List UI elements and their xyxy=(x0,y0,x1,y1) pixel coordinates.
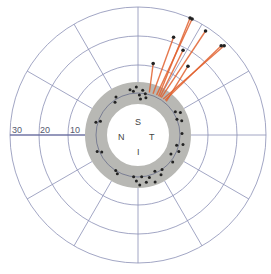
data-point xyxy=(171,161,174,164)
data-point xyxy=(180,132,183,135)
data-point xyxy=(138,183,141,186)
vector-endpoint xyxy=(188,16,192,20)
spoke xyxy=(74,181,112,246)
data-point xyxy=(148,176,151,179)
axis-label-20: 20 xyxy=(40,125,50,135)
data-point xyxy=(145,181,148,184)
spoke xyxy=(165,181,203,246)
vector-line xyxy=(159,18,190,96)
spoke xyxy=(184,162,249,200)
data-point xyxy=(154,180,157,183)
data-point xyxy=(140,175,143,178)
data-point xyxy=(169,153,172,156)
axis-label-30: 30 xyxy=(12,125,22,135)
data-point xyxy=(135,86,138,89)
data-point xyxy=(132,175,135,178)
data-point xyxy=(94,121,97,124)
label-temporal: T xyxy=(149,132,155,142)
data-point xyxy=(144,92,147,95)
data-point xyxy=(141,89,144,92)
data-point xyxy=(139,98,142,101)
data-point xyxy=(179,111,182,114)
data-point xyxy=(175,144,178,147)
data-point xyxy=(114,169,117,172)
data-point xyxy=(116,172,119,175)
vector-endpoint xyxy=(172,35,176,39)
spoke xyxy=(74,24,112,89)
data-point xyxy=(114,101,117,104)
vector-endpoint xyxy=(204,29,208,33)
annulus-band xyxy=(96,93,180,177)
data-point xyxy=(180,119,183,122)
data-point xyxy=(175,118,178,121)
data-point xyxy=(100,150,103,153)
data-point xyxy=(96,150,99,153)
data-point xyxy=(99,120,102,123)
spoke xyxy=(27,162,92,200)
data-point xyxy=(181,143,184,146)
label-superior: S xyxy=(135,117,141,127)
vector-line xyxy=(160,50,183,97)
spoke xyxy=(27,71,92,109)
data-point xyxy=(129,88,132,91)
data-point xyxy=(153,170,156,173)
spoke xyxy=(184,71,249,109)
data-point xyxy=(132,90,135,93)
vector-endpoint xyxy=(219,44,223,48)
data-point xyxy=(174,110,177,113)
vector-endpoint xyxy=(186,64,190,68)
vector-endpoint xyxy=(151,62,155,66)
radial-axis-labels: 30 20 10 xyxy=(12,125,80,135)
quadrant-labels: S N T I xyxy=(118,117,155,157)
data-point xyxy=(144,96,147,99)
data-point xyxy=(161,168,164,171)
vector-endpoint xyxy=(181,48,185,52)
label-nasal: N xyxy=(118,132,125,142)
grey-annulus xyxy=(96,93,180,177)
polar-diagram: 30 20 10 S N T I xyxy=(0,0,271,274)
label-inferior: I xyxy=(137,147,140,157)
data-point xyxy=(160,173,163,176)
data-point xyxy=(135,179,138,182)
vector-line xyxy=(166,66,188,101)
data-point xyxy=(177,150,180,153)
data-point xyxy=(115,95,118,98)
axis-label-10: 10 xyxy=(70,125,80,135)
data-point xyxy=(138,94,141,97)
